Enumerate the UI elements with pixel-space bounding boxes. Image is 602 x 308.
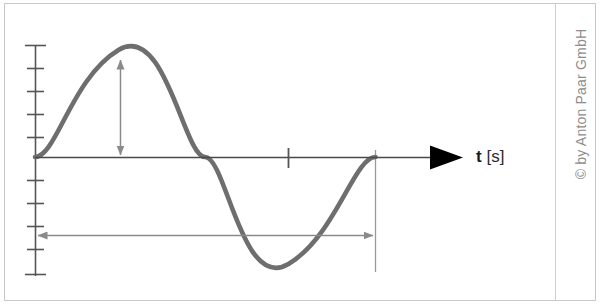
panel-divider xyxy=(555,4,556,300)
sine-wave-plot xyxy=(0,0,555,308)
x-axis xyxy=(35,146,463,170)
y-axis xyxy=(25,45,46,276)
x-axis-label-unit: [s] xyxy=(486,147,504,166)
x-axis-label: t [s] xyxy=(476,147,504,167)
figure-screenshot: t [s] © by Anton Paar GmbH xyxy=(0,0,602,308)
x-axis-arrowhead-icon xyxy=(430,146,463,170)
copyright-strip: © by Anton Paar GmbH xyxy=(560,0,602,308)
copyright-notice: © by Anton Paar GmbH xyxy=(573,29,589,180)
